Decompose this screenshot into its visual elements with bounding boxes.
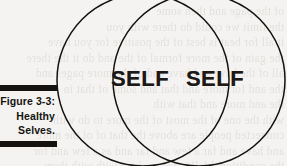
caption-figure-number: Figure 3-3:	[0, 94, 55, 109]
caption-rule-bottom	[0, 141, 57, 147]
figure-3-3: of the page and then some the limit we c…	[0, 0, 287, 166]
figure-caption: Figure 3-3: Healthy Selves.	[0, 85, 57, 147]
venn-label-right-self: SELF	[186, 66, 244, 92]
venn-label-left-self: SELF	[111, 66, 169, 92]
caption-title-line-2: Selves.	[0, 123, 55, 138]
caption-title-line-1: Healthy	[0, 109, 55, 124]
caption-text: Figure 3-3: Healthy Selves.	[0, 91, 57, 141]
